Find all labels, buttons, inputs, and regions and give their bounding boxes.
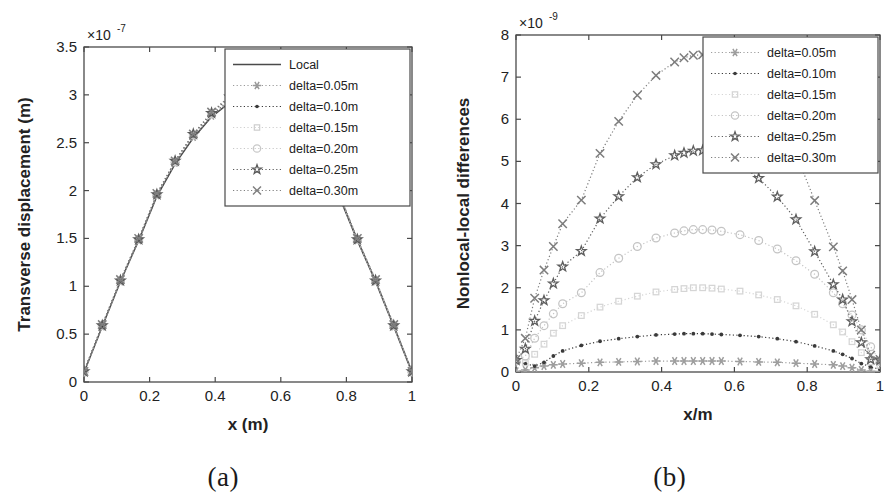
marker-pentagram <box>772 192 782 201</box>
marker-dot <box>738 333 742 337</box>
marker-dot <box>794 340 798 344</box>
x-axis-title: x/m <box>683 405 712 424</box>
marker-asterisk <box>651 357 660 365</box>
y-tick-label: 1 <box>500 321 508 338</box>
x-tick-label: 0.2 <box>578 377 599 394</box>
legend-label: delta=0.05m <box>289 79 358 93</box>
marker-circle <box>530 334 538 342</box>
marker-cross <box>829 243 837 251</box>
marker-dot <box>840 352 844 356</box>
marker-dot <box>579 344 583 348</box>
marker-dot <box>850 357 854 361</box>
marker-circle <box>829 289 837 297</box>
panel-b: 00.20.40.60.81012345678×10-9x/mNonlocal-… <box>447 0 893 497</box>
marker-pentagram <box>669 150 679 159</box>
marker-asterisk <box>632 358 641 366</box>
x-tick-label: 0.6 <box>270 387 291 404</box>
legend-label: Local <box>289 58 319 72</box>
marker-pentagram <box>753 173 763 182</box>
y-tick-label: 5 <box>500 152 508 169</box>
marker-pentagram <box>679 148 689 157</box>
x-tick-label: 0.2 <box>139 387 160 404</box>
marker-asterisk <box>828 361 837 369</box>
y-tick-label: 3.5 <box>56 38 77 55</box>
marker-asterisk <box>707 357 716 365</box>
marker-cross <box>558 220 566 228</box>
marker-pentagram <box>529 316 539 325</box>
marker-pentagram <box>539 295 549 304</box>
y-axis-title: Transverse displacement (m) <box>15 97 34 331</box>
x-tick-label: 0 <box>80 387 88 404</box>
y-axis-exponent: ×10 <box>87 27 111 43</box>
marker-asterisk <box>576 359 585 367</box>
marker-cross <box>595 149 603 157</box>
y-axis-title: Nonlocal-local differences <box>454 98 473 310</box>
series-markers <box>514 332 882 372</box>
marker-pentagram <box>595 214 605 223</box>
marker-dot <box>868 365 872 369</box>
legend-label: delta=0.25m <box>289 163 358 177</box>
marker-asterisk <box>735 358 744 366</box>
marker-asterisk <box>595 359 604 367</box>
marker-dot <box>542 360 546 364</box>
chart-panel-b: 00.20.40.60.81012345678×10-9x/mNonlocal-… <box>447 0 893 460</box>
marker-dot <box>560 349 564 353</box>
legend-label: delta=0.10m <box>289 100 358 114</box>
marker-dot <box>255 105 259 109</box>
x-tick-label: 0.8 <box>336 387 357 404</box>
marker-asterisk <box>614 358 623 366</box>
y-tick-label: 3 <box>69 86 77 103</box>
legend-label: delta=0.25m <box>767 130 836 144</box>
marker-dot <box>710 332 714 336</box>
legend-label: delta=0.10m <box>767 67 836 81</box>
y-tick-label: 2 <box>69 182 77 199</box>
y-tick-label: 7 <box>500 68 508 85</box>
y-tick-label: 2 <box>500 279 508 296</box>
marker-square <box>597 304 603 310</box>
y-tick-label: 8 <box>500 26 508 43</box>
x-tick-label: 0.6 <box>723 377 744 394</box>
marker-dot <box>812 344 816 348</box>
marker-pentagram <box>828 279 838 288</box>
y-axis-exponent-power: -9 <box>549 11 558 22</box>
marker-asterisk <box>688 357 697 365</box>
marker-square <box>690 285 696 291</box>
marker-dot <box>635 335 639 339</box>
legend-label: delta=0.15m <box>767 88 836 102</box>
chart-panel-a: 00.20.40.60.8100.511.522.533.5×10-7x (m)… <box>0 0 447 460</box>
y-tick-label: 1.5 <box>56 229 77 246</box>
legend-label: delta=0.20m <box>767 109 836 123</box>
marker-square <box>737 288 743 294</box>
marker-dot <box>616 337 620 341</box>
figure-container: 00.20.40.60.8100.511.522.533.5×10-7x (m)… <box>0 0 893 497</box>
y-axis-exponent: ×10 <box>519 15 543 31</box>
y-tick-label: 0 <box>500 363 508 380</box>
x-axis-title: x (m) <box>228 415 269 434</box>
marker-dot <box>756 335 760 339</box>
x-tick-label: 1 <box>408 387 416 404</box>
marker-asterisk <box>838 362 847 370</box>
marker-circle <box>596 269 604 277</box>
y-tick-label: 0 <box>69 373 77 390</box>
marker-asterisk <box>847 364 856 372</box>
marker-circle <box>540 322 548 330</box>
marker-dot <box>733 72 737 76</box>
marker-dot <box>859 362 863 366</box>
marker-cross <box>866 351 874 359</box>
marker-dot <box>700 332 704 336</box>
legend-label: delta=0.05m <box>767 46 836 60</box>
marker-cross <box>651 71 659 79</box>
marker-dot <box>682 332 686 336</box>
marker-asterisk <box>558 360 567 368</box>
x-tick-label: 0.4 <box>651 377 672 394</box>
series-line <box>516 150 880 360</box>
legend-label: delta=0.30m <box>289 184 358 198</box>
marker-circle <box>577 289 585 297</box>
marker-circle <box>736 231 744 239</box>
marker-cross <box>577 196 585 204</box>
x-tick-label: 0.4 <box>205 387 226 404</box>
series-line <box>516 288 880 366</box>
marker-pentagram <box>791 215 801 224</box>
marker-dot <box>654 333 658 337</box>
marker-asterisk <box>716 357 725 365</box>
